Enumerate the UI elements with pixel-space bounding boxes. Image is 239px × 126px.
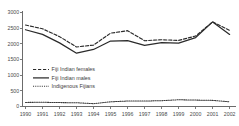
legend-label: Fiji Indian males [52,75,91,81]
y-tick-label: 500 [10,88,19,94]
y-tick-label: 0 [16,103,19,109]
x-tick-label: 2002 [224,111,236,117]
x-tick-label: 1996 [122,111,134,117]
x-axis: 1990199119921993199419951996199719981999… [20,107,236,117]
x-tick-label: 1992 [54,111,66,117]
x-tick-label: 1998 [156,111,168,117]
x-tick-label: 1994 [88,111,100,117]
y-tick-label: 1000 [8,72,20,78]
chart-legend: Fiji Indian femalesFiji Indian malesIndi… [33,66,95,89]
x-tick-label: 2001 [207,111,219,117]
y-tick-label: 2500 [8,25,20,31]
x-tick-label: 1997 [139,111,151,117]
y-tick-label: 1500 [8,56,20,62]
legend-label: Indigenous Fijians [52,83,96,89]
line-chart-figure: 050010001500200025003000 199019911992199… [0,0,239,126]
x-tick-label: 1991 [37,111,49,117]
legend-label: Fiji Indian females [52,66,96,72]
series-line-fiji-indian-males [26,22,230,53]
y-tick-label: 2000 [8,41,20,47]
x-tick-label: 2000 [190,111,202,117]
series-line-indigenous-fijians [26,100,230,104]
x-tick-label: 1995 [105,111,117,117]
x-tick-label: 1990 [20,111,32,117]
x-tick-label: 1993 [71,111,83,117]
chart-canvas: 050010001500200025003000 199019911992199… [0,0,239,126]
data-series-group [26,22,230,104]
y-axis: 050010001500200025003000 [8,9,23,109]
y-tick-label: 3000 [8,9,20,15]
x-tick-label: 1999 [173,111,185,117]
